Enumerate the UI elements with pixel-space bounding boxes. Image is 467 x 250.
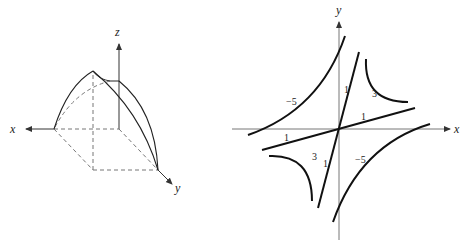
contour-3-lower bbox=[269, 156, 312, 201]
label-1-shallow-left: 1 bbox=[284, 132, 289, 143]
figure-canvas: x z y y x −5 −5 3 3 1 1 1 1 bbox=[0, 0, 467, 250]
y-axis-label: y bbox=[335, 3, 342, 17]
right-contour-figure: y x −5 −5 3 3 1 1 1 1 bbox=[232, 3, 460, 240]
label-neg5-upper: −5 bbox=[286, 96, 297, 107]
y-axis-label: y bbox=[174, 181, 181, 195]
y-axis bbox=[158, 170, 172, 184]
contour-neg5-upper bbox=[248, 36, 345, 135]
label-1-shallow-right: 1 bbox=[361, 111, 366, 122]
label-1-steep-lower: 1 bbox=[323, 158, 328, 169]
x-axis-label: x bbox=[453, 122, 460, 136]
base-rectangle bbox=[54, 71, 158, 170]
left-3d-figure: x z y bbox=[9, 25, 181, 195]
x-axis-label: x bbox=[9, 122, 16, 136]
label-3-upper: 3 bbox=[372, 88, 377, 99]
surface-edges bbox=[54, 71, 158, 170]
contour-neg5-lower bbox=[333, 124, 430, 222]
z-axis-label: z bbox=[114, 25, 120, 39]
label-1-steep-upper: 1 bbox=[344, 84, 349, 95]
label-3-lower: 3 bbox=[312, 151, 317, 162]
label-neg5-lower: −5 bbox=[355, 154, 366, 165]
